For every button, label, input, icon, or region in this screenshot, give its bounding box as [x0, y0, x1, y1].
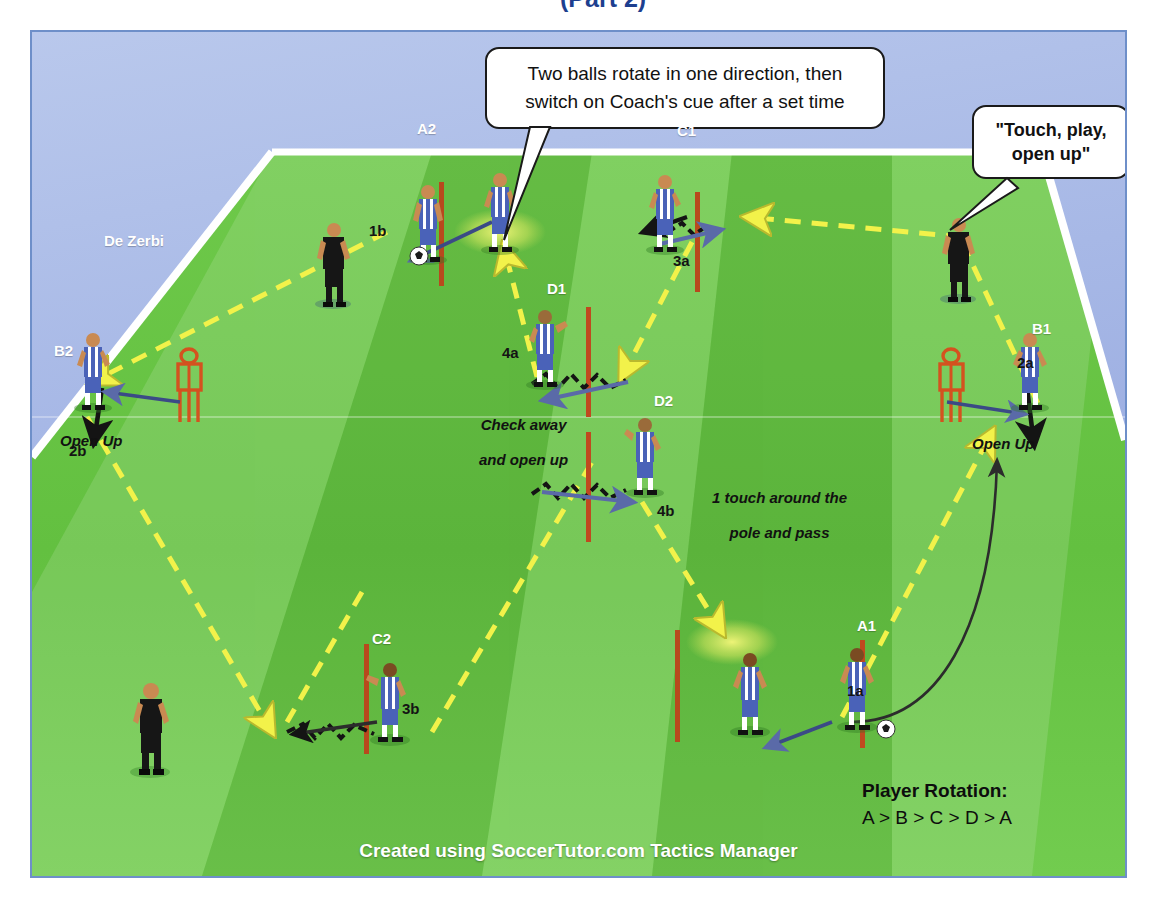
annotation-one-touch-line2: pole and pass [730, 524, 830, 541]
sequence-label-1a: 1a [847, 682, 864, 699]
callout-main-instruction: Two balls rotate in one direction, then … [485, 47, 885, 129]
pole-center-lower [586, 432, 591, 542]
player-label-C1: C1 [677, 122, 696, 139]
pole-top-left [439, 182, 444, 286]
player-label-B1: B1 [1032, 320, 1051, 337]
pole-bottom-right [675, 630, 680, 742]
diagram-stage: (Part 2) [0, 0, 1157, 908]
sequence-label-4a: 4a [502, 344, 519, 361]
annotation-check-away-line2: and open up [479, 451, 568, 468]
annotation-one-touch-line1: 1 touch around the [712, 489, 847, 506]
player-label-A2: A2 [417, 120, 436, 137]
sequence-label-2a: 2a [1017, 354, 1034, 371]
ball-a1 [877, 720, 895, 738]
pole-center-upper [586, 307, 591, 417]
player-label-D1: D1 [547, 280, 566, 297]
callout-coach-cue: "Touch, play, open up" [972, 105, 1127, 179]
sequence-label-3a: 3a [673, 252, 690, 269]
callout-coach-line2: open up" [1012, 144, 1091, 164]
player-rotation-title: Player Rotation: [862, 780, 1008, 802]
tactics-diagram-panel: Two balls rotate in one direction, then … [30, 30, 1127, 878]
footer-credit: Created using SoccerTutor.com Tactics Ma… [32, 840, 1125, 862]
sequence-label-1b: 1b [369, 222, 387, 239]
player-label-D2: D2 [654, 392, 673, 409]
player-label-A1: A1 [857, 617, 876, 634]
page-title-fragment: (Part 2) [0, 0, 1157, 22]
coach-name-label: De Zerbi [104, 232, 164, 249]
player-label-C2: C2 [372, 630, 391, 647]
player-rotation-sequence: A > B > C > D > A [862, 807, 1012, 829]
pole-top-right [695, 192, 700, 292]
annotation-open-up-right: Open Up [972, 435, 1035, 452]
annotation-open-up-left: Open Up [60, 432, 123, 449]
callout-coach-line1: "Touch, play, [996, 120, 1107, 140]
annotation-one-touch: 1 touch around the pole and pass [687, 472, 847, 558]
annotation-check-away: Check away and open up [454, 399, 568, 485]
pitch-graphic [32, 32, 1125, 876]
ball-a2 [410, 247, 428, 265]
annotation-check-away-line1: Check away [481, 416, 567, 433]
callout-main-line1: Two balls rotate in one direction, then [528, 63, 843, 84]
ball-glow-bottom [686, 619, 778, 665]
page-title-text: (Part 2) [560, 0, 646, 13]
sequence-label-3b: 3b [402, 700, 420, 717]
player-label-B2: B2 [54, 342, 73, 359]
callout-main-line2: switch on Coach's cue after a set time [525, 91, 844, 112]
sequence-label-4b: 4b [657, 502, 675, 519]
pole-bottom-left [364, 644, 369, 754]
